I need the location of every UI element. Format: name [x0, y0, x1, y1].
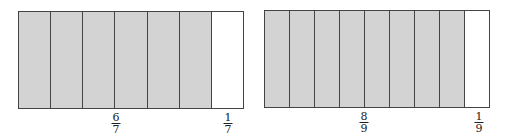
shaded-part — [51, 12, 83, 108]
denominator: 9 — [476, 123, 483, 134]
fraction-bar-ninths — [264, 10, 490, 108]
unshaded-part — [212, 12, 243, 108]
denominator: 9 — [361, 123, 368, 134]
shaded-part — [180, 12, 212, 108]
shaded-part — [290, 11, 315, 107]
fraction-bar-sevenths — [18, 11, 244, 109]
fraction-label-one-seventh: 1 7 — [224, 113, 233, 135]
unshaded-part — [465, 11, 489, 107]
fraction-label-one-ninth: 1 9 — [475, 112, 484, 134]
fraction-label-six-sevenths: 6 7 — [112, 113, 121, 135]
shaded-part — [365, 11, 390, 107]
denominator: 7 — [113, 124, 120, 135]
shaded-part — [148, 12, 180, 108]
shaded-part — [265, 11, 290, 107]
shaded-part — [415, 11, 440, 107]
shaded-part — [340, 11, 365, 107]
shaded-part — [440, 11, 465, 107]
shaded-part — [115, 12, 147, 108]
shaded-part — [315, 11, 340, 107]
shaded-part — [19, 12, 51, 108]
fraction-label-eight-ninths: 8 9 — [360, 112, 369, 134]
denominator: 7 — [225, 124, 232, 135]
shaded-part — [390, 11, 415, 107]
shaded-part — [83, 12, 115, 108]
